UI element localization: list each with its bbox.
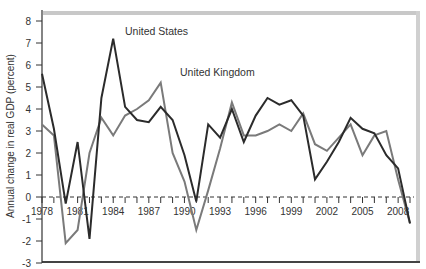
gdp-line-chart: -3-2-1012345678 197819811984198719901993…	[0, 0, 426, 269]
x-tick-label: 1987	[138, 206, 161, 217]
x-tick-label: 1978	[31, 206, 54, 217]
y-tick-label: 7	[25, 38, 31, 49]
annotation-united-states: United States	[125, 25, 188, 37]
y-tick-label: -2	[22, 236, 31, 247]
y-tick-label: 8	[25, 16, 31, 27]
x-axis-labels: 1978198119841987199019931996199920022005…	[31, 206, 410, 217]
x-tick-label: 1993	[209, 206, 232, 217]
series-line-united-kingdom	[42, 83, 410, 244]
x-tick-label: 1999	[280, 206, 303, 217]
y-tick-label: 6	[25, 60, 31, 71]
y-tick-label: 2	[25, 148, 31, 159]
y-tick-label: 5	[25, 82, 31, 93]
y-axis-ticks: -3-2-1012345678	[22, 16, 42, 269]
y-tick-label: 4	[25, 104, 31, 115]
y-tick-label: -3	[22, 258, 31, 269]
plot-right-border	[416, 11, 420, 263]
x-tick-label: 2005	[351, 206, 374, 217]
plot-top-border	[43, 11, 420, 15]
x-axis-ticks	[42, 197, 410, 203]
plot-bottom-border	[42, 261, 420, 263]
y-tick-label: 1	[25, 170, 31, 181]
x-tick-label: 2002	[316, 206, 339, 217]
y-tick-label: 0	[25, 192, 31, 203]
annotation-united-kingdom: United Kingdom	[180, 66, 255, 78]
y-axis-title: Annual change in real GDP (percent)	[5, 54, 16, 218]
y-tick-label: 3	[25, 126, 31, 137]
x-tick-label: 1984	[102, 206, 125, 217]
x-tick-label: 1996	[245, 206, 268, 217]
